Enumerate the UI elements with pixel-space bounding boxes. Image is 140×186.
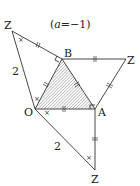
label-o: O <box>24 106 33 119</box>
label-a: A <box>97 106 107 119</box>
diagram: × × × × (a=−1) Z B Z O A Z 2 2 <box>0 0 140 186</box>
title-label: (a=−1) <box>50 18 91 31</box>
label-z-bottom: Z <box>91 173 99 186</box>
length-left-side: 2 <box>12 65 19 78</box>
label-z-right: Z <box>127 54 135 67</box>
length-lower-side: 2 <box>54 140 61 153</box>
segment-z-right-a <box>95 59 126 109</box>
angle-mark-o-lower: × <box>44 109 50 117</box>
angle-mark-o-upper: × <box>34 95 40 103</box>
label-b: B <box>64 47 72 60</box>
angle-mark-z-bottom: × <box>86 154 92 162</box>
label-z-top-left: Z <box>4 19 12 32</box>
shaded-triangle-oab <box>35 59 95 109</box>
angle-mark-z-top: × <box>18 36 24 44</box>
